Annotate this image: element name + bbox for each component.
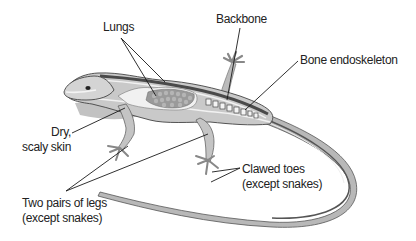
leader-legs-b — [66, 134, 208, 191]
label-two-pairs-of-legs: Two pairs of legs (except snakes) — [22, 196, 107, 226]
label-toes-line2: (except snakes) — [242, 177, 322, 192]
label-backbone: Backbone — [216, 12, 267, 27]
label-legs-line1: Two pairs of legs — [22, 196, 107, 211]
leader-legs-a — [66, 146, 128, 191]
leader-backbone — [227, 28, 240, 100]
label-dry-line1: Dry, — [22, 125, 71, 140]
label-dry-line2: scaly skin — [22, 140, 71, 155]
label-lungs: Lungs — [103, 20, 134, 35]
rear-leg — [196, 118, 214, 162]
label-legs-line2: (except snakes) — [22, 211, 107, 226]
label-toes-line1: Clawed toes — [242, 162, 322, 177]
label-dry-skin: Dry, scaly skin — [22, 125, 71, 155]
leader-endoskeleton — [245, 61, 298, 110]
label-clawed-toes: Clawed toes (except snakes) — [242, 162, 322, 192]
label-bone-endoskeleton: Bone endoskeleton — [300, 53, 398, 68]
eye — [85, 86, 90, 90]
